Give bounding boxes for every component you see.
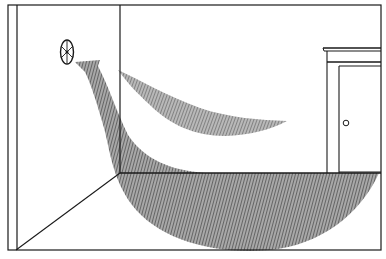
floor-diagonal bbox=[16, 173, 120, 250]
upper-airflow-plume bbox=[118, 70, 287, 136]
door-knob-icon bbox=[343, 120, 349, 126]
wall-fan-icon bbox=[61, 40, 74, 64]
illustration-canvas bbox=[0, 0, 386, 259]
room-airflow-illustration bbox=[0, 0, 386, 259]
door bbox=[323, 48, 381, 173]
